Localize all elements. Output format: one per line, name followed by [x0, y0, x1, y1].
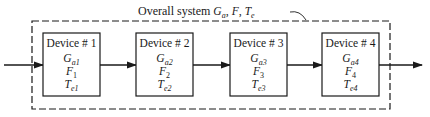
device-block-2: Device # 2 Ga2 F2 Te2	[136, 33, 193, 96]
device-block-1: Device # 1 Ga1 F1 Te1	[43, 33, 100, 96]
overall-system-title: Overall system Ga, F, Te	[138, 4, 255, 20]
device-block-4: Device # 4 Ga4 F4 Te4	[322, 33, 379, 96]
device-label: Device # 2	[140, 37, 190, 49]
device-block-3: Device # 3 Ga3 F3 Te3	[230, 33, 287, 96]
device-label: Device # 1	[47, 37, 97, 49]
title-leader-line	[290, 12, 306, 20]
device-label: Device # 3	[234, 37, 284, 49]
device-label: Device # 4	[326, 37, 376, 49]
cascaded-system-diagram: Overall system Ga, F, Te Device # 1 Ga1 …	[0, 0, 430, 117]
